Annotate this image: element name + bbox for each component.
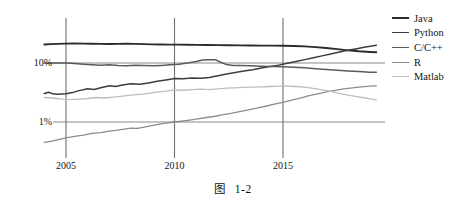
caption-number: 1-2: [235, 183, 252, 195]
x-tick-label-2010: 2010: [159, 160, 191, 171]
series-line-r: [44, 86, 376, 143]
legend-item-c-c-[interactable]: C/C++: [392, 40, 466, 55]
caption-prefix: 图: [214, 182, 226, 196]
series-line-matlab: [44, 86, 376, 99]
chart-legend: JavaPythonC/C++RMatlab: [392, 11, 466, 84]
figure-container: 10%1% 200520102015 JavaPythonC/C++RMatla…: [0, 0, 466, 205]
legend-item-r[interactable]: R: [392, 55, 466, 70]
y-tick-label-1%: 1%: [22, 116, 52, 127]
legend-swatch-icon: [392, 17, 409, 19]
series-line-c-c-: [44, 60, 376, 73]
x-tick-label-2005: 2005: [50, 160, 82, 171]
legend-label: Python: [414, 27, 444, 38]
legend-item-java[interactable]: Java: [392, 11, 466, 26]
legend-label: Matlab: [414, 71, 444, 82]
legend-label: Java: [414, 13, 433, 24]
legend-swatch-icon: [392, 32, 409, 33]
legend-swatch-icon: [392, 47, 409, 48]
legend-swatch-icon: [392, 76, 409, 77]
series-line-java: [44, 44, 376, 53]
legend-label: R: [414, 57, 421, 68]
legend-item-matlab[interactable]: Matlab: [392, 69, 466, 84]
legend-item-python[interactable]: Python: [392, 26, 466, 41]
legend-label: C/C++: [414, 42, 443, 53]
figure-caption: 图1-2: [0, 180, 466, 196]
legend-swatch-icon: [392, 62, 409, 63]
series-lines: [44, 44, 376, 143]
y-tick-label-10%: 10%: [22, 57, 52, 68]
x-tick-label-2015: 2015: [267, 160, 299, 171]
